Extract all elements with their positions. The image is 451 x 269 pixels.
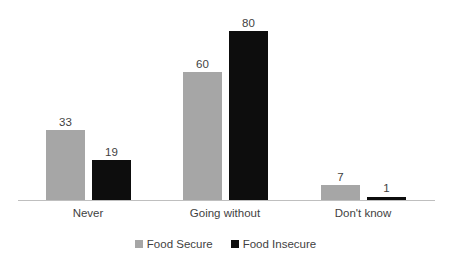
- category-label-going-without: Going without: [183, 207, 267, 219]
- bar-value-label: 60: [183, 58, 222, 70]
- bar-value-label: 19: [92, 146, 131, 158]
- bar-value-label: 33: [46, 116, 85, 128]
- bar-value-label: 1: [367, 182, 406, 194]
- bar-chart: 33 19 60 80 7: [0, 0, 451, 269]
- legend-item-food-secure[interactable]: Food Secure: [135, 238, 213, 250]
- bar-value-label: 7: [321, 171, 360, 183]
- legend-swatch-icon: [135, 240, 143, 248]
- bar-group: 60 80: [183, 0, 267, 200]
- bar-insecure[interactable]: [229, 31, 268, 200]
- category-label-dont-know: Don't know: [321, 207, 405, 219]
- legend-label: Food Secure: [147, 238, 213, 250]
- legend-swatch-icon: [231, 240, 239, 248]
- category-label-never: Never: [46, 207, 130, 219]
- legend-item-food-insecure[interactable]: Food Insecure: [231, 238, 317, 250]
- bar-secure[interactable]: [321, 185, 360, 200]
- bar-insecure[interactable]: [367, 197, 406, 200]
- plot-area: 33 19 60 80 7: [0, 0, 451, 201]
- bar-secure[interactable]: [46, 130, 85, 200]
- bar-group: 33 19: [46, 0, 130, 200]
- legend: Food Secure Food Insecure: [0, 238, 451, 250]
- legend-label: Food Insecure: [243, 238, 317, 250]
- bar-secure[interactable]: [183, 72, 222, 200]
- category-axis: Never Going without Don't know: [0, 207, 451, 227]
- bar-group: 7 1: [321, 0, 405, 200]
- bar-insecure[interactable]: [92, 160, 131, 200]
- bar-value-label: 80: [229, 17, 268, 29]
- x-axis-line: [18, 200, 435, 201]
